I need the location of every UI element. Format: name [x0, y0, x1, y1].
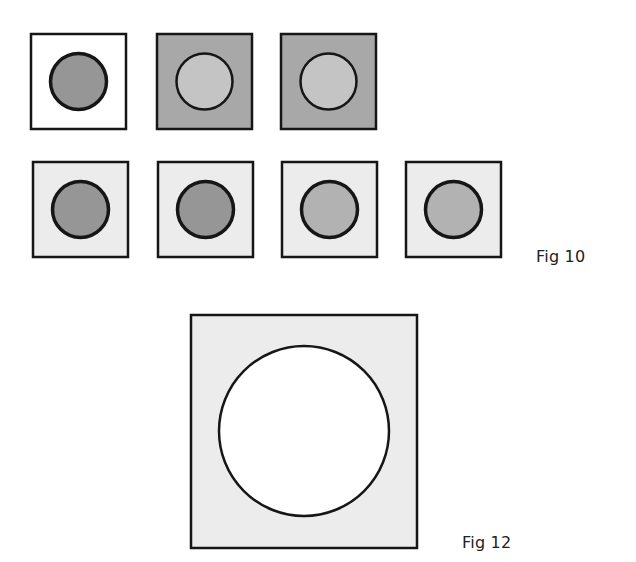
- fig10-caption: Fig 10: [536, 247, 585, 266]
- fig10-circle: [177, 54, 233, 110]
- fig10-circle: [53, 182, 109, 238]
- fig10-circle: [301, 54, 357, 110]
- fig10-circle: [426, 182, 482, 238]
- figure-canvas: [0, 0, 636, 562]
- fig12-caption: Fig 12: [462, 533, 511, 552]
- fig12-circle: [219, 346, 389, 516]
- fig10-circle: [51, 54, 107, 110]
- fig10-circle: [178, 182, 234, 238]
- fig10-circle: [302, 182, 358, 238]
